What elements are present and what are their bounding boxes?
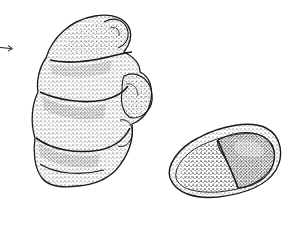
specimen-apertural-view <box>169 124 280 197</box>
specimen-illustration <box>0 0 290 227</box>
illustration-canvas <box>0 0 290 227</box>
specimen-side-view <box>32 14 154 188</box>
arrow-icon <box>0 46 13 52</box>
